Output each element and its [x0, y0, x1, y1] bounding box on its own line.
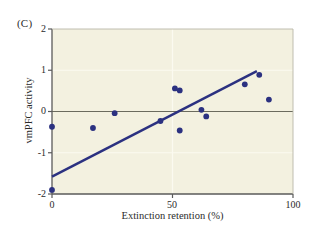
data-point	[177, 88, 183, 94]
data-point	[242, 81, 248, 87]
data-point	[266, 97, 272, 103]
data-point	[158, 118, 164, 124]
data-point	[203, 114, 209, 120]
data-point	[177, 128, 183, 134]
plot-area	[0, 0, 315, 232]
data-point	[49, 124, 55, 130]
data-point	[199, 107, 205, 113]
data-point	[256, 72, 262, 78]
data-point	[49, 187, 55, 193]
data-point	[90, 125, 96, 131]
data-point	[112, 110, 118, 116]
figure-panel-c: (C) vmPFC activity Extinction retention …	[0, 0, 315, 232]
